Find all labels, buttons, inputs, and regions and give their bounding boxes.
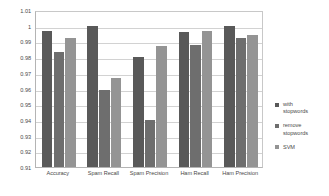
y-axis-tick-label: 1.01 [20, 8, 31, 14]
bar-chart: 1.0110.990.980.970.960.950.940.930.920.9… [0, 0, 329, 196]
y-axis-tick-label: 0.95 [20, 102, 31, 108]
chart-legend: withstopwordsremovestopwordsSVM [274, 101, 329, 158]
bar [202, 31, 213, 167]
bar-group [218, 12, 264, 167]
legend-item-label: with [283, 101, 329, 108]
y-axis-tick-label: 0.96 [20, 87, 31, 93]
y-axis-tick-label: 0.97 [20, 71, 31, 77]
bar-group [173, 12, 219, 167]
bar [99, 90, 110, 167]
x-axis-tick-label: Spam Recall [81, 170, 127, 177]
bar [87, 26, 98, 167]
legend-item-label-continued: stopwords [283, 108, 329, 115]
legend-item: withstopwords [274, 101, 329, 115]
x-axis-tick-label: Ham Recall [172, 170, 218, 177]
bar [111, 78, 122, 167]
plot-area [35, 11, 263, 168]
bar [65, 38, 76, 167]
y-axis: 1.0110.990.980.970.960.950.940.930.920.9… [0, 11, 34, 168]
legend-swatch-icon [275, 124, 279, 128]
legend-item-label: SVM [283, 144, 329, 151]
y-axis-tick-label: 0.92 [20, 149, 31, 155]
x-axis-tick-label: Ham Precision [217, 170, 263, 177]
legend-swatch-icon [275, 103, 279, 107]
y-axis-tick-label: 0.99 [20, 39, 31, 45]
y-axis-tick-label: 1 [28, 24, 31, 30]
bar [247, 35, 258, 167]
legend-item: removestopwords [274, 122, 329, 136]
y-axis-tick-label: 0.91 [20, 165, 31, 171]
legend-item-label: remove [283, 122, 329, 129]
x-axis-tick-label: Accuracy [35, 170, 81, 177]
bar [179, 32, 190, 167]
bar-group [36, 12, 82, 167]
bar [236, 38, 247, 167]
y-axis-tick-label: 0.93 [20, 134, 31, 140]
x-axis-tick-label: Spam Precision [126, 170, 172, 177]
bar [54, 52, 65, 167]
bar [224, 26, 235, 167]
y-axis-tick-label: 0.94 [20, 118, 31, 124]
bar-group [82, 12, 128, 167]
legend-swatch-icon [275, 145, 279, 149]
y-axis-tick-label: 0.98 [20, 55, 31, 61]
bar-group [127, 12, 173, 167]
legend-item-label-continued: stopwords [283, 130, 329, 137]
bar [156, 46, 167, 167]
bars-layer [36, 12, 262, 167]
bar [133, 57, 144, 167]
x-axis: AccuracySpam RecallSpam PrecisionHam Rec… [35, 170, 263, 184]
bar [42, 31, 53, 167]
bar [145, 120, 156, 167]
bar [190, 45, 201, 167]
legend-item: SVM [274, 144, 329, 151]
